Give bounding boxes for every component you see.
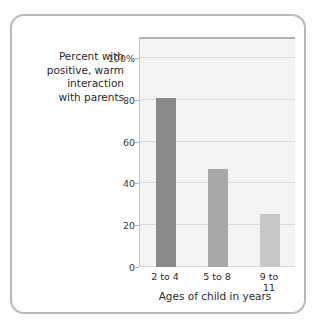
x-axis-title: Ages of child in years bbox=[120, 290, 310, 302]
y-axis-tick-labels: 020406080100% bbox=[99, 37, 135, 267]
y-tick-60: 60 bbox=[101, 136, 135, 147]
gridline-100% bbox=[140, 57, 295, 58]
y-tick-0: 0 bbox=[101, 262, 135, 273]
y-tick-mark bbox=[135, 225, 139, 226]
plot-area bbox=[139, 37, 295, 267]
bar-2-to-4[interactable] bbox=[156, 98, 176, 267]
y-tick-mark bbox=[135, 267, 139, 268]
figure-container: Percent with positive, warm interaction … bbox=[0, 0, 324, 334]
y-tick-mark bbox=[135, 58, 139, 59]
y-tick-20: 20 bbox=[101, 220, 135, 231]
y-tick-mark bbox=[135, 100, 139, 101]
y-tick-80: 80 bbox=[101, 94, 135, 105]
y-tick-100%: 100% bbox=[101, 52, 135, 63]
y-tick-40: 40 bbox=[101, 178, 135, 189]
bar-9-to-11[interactable] bbox=[260, 214, 280, 267]
bar-5-to-8[interactable] bbox=[208, 169, 228, 267]
y-tick-mark bbox=[135, 142, 139, 143]
x-tick-5-to-8: 5 to 8 bbox=[203, 271, 231, 282]
y-tick-mark bbox=[135, 183, 139, 184]
x-axis-tick-labels: 2 to 45 to 89 to 11 bbox=[139, 271, 295, 287]
x-tick-2-to-4: 2 to 4 bbox=[151, 271, 179, 282]
